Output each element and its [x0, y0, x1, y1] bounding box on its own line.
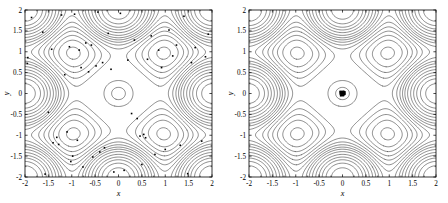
svg-text:-1.5: -1.5 — [43, 180, 55, 188]
svg-text:-1.5: -1.5 — [235, 153, 247, 161]
svg-text:0.5: 0.5 — [237, 69, 246, 77]
svg-text:-0.5: -0.5 — [313, 180, 325, 188]
svg-text:-1: -1 — [69, 180, 75, 188]
svg-text:-0.5: -0.5 — [11, 111, 23, 119]
svg-text:x: x — [116, 189, 121, 198]
contour-plot-right: -2-1.5-1-0.500.511.52-2-1.5-1-0.500.511.… — [224, 0, 448, 203]
svg-text:0.5: 0.5 — [137, 180, 146, 188]
svg-text:2: 2 — [242, 7, 246, 15]
svg-text:1: 1 — [18, 48, 22, 56]
svg-text:0.5: 0.5 — [361, 180, 370, 188]
svg-text:2: 2 — [434, 180, 438, 188]
svg-text:y: y — [226, 91, 235, 96]
svg-text:2: 2 — [18, 7, 22, 15]
panel-left: -2-1.5-1-0.500.511.52-2-1.5-1-0.500.511.… — [0, 0, 224, 203]
svg-text:-2: -2 — [22, 180, 28, 188]
svg-text:1.5: 1.5 — [408, 180, 417, 188]
svg-text:-2: -2 — [246, 180, 252, 188]
svg-text:-1: -1 — [16, 132, 22, 140]
svg-text:1.5: 1.5 — [184, 180, 193, 188]
svg-text:-1: -1 — [293, 180, 299, 188]
panel-right: -2-1.5-1-0.500.511.52-2-1.5-1-0.500.511.… — [224, 0, 448, 203]
svg-text:0: 0 — [18, 90, 22, 98]
svg-text:1: 1 — [242, 48, 246, 56]
svg-text:-0.5: -0.5 — [89, 180, 101, 188]
svg-text:-2: -2 — [240, 174, 246, 182]
svg-text:0: 0 — [117, 180, 121, 188]
svg-text:0.5: 0.5 — [13, 69, 22, 77]
svg-text:x: x — [340, 189, 345, 198]
contour-plot-left: -2-1.5-1-0.500.511.52-2-1.5-1-0.500.511.… — [0, 0, 224, 203]
svg-text:1.5: 1.5 — [237, 27, 246, 35]
svg-text:1.5: 1.5 — [13, 27, 22, 35]
svg-text:1: 1 — [163, 180, 167, 188]
svg-text:y: y — [2, 91, 11, 96]
svg-text:-2: -2 — [16, 174, 22, 182]
two-panel-contour-figure: -2-1.5-1-0.500.511.52-2-1.5-1-0.500.511.… — [0, 0, 448, 203]
svg-text:-0.5: -0.5 — [235, 111, 247, 119]
svg-text:2: 2 — [210, 180, 214, 188]
svg-text:0: 0 — [242, 90, 246, 98]
svg-text:-1.5: -1.5 — [11, 153, 23, 161]
svg-text:-1.5: -1.5 — [267, 180, 279, 188]
svg-text:-1: -1 — [240, 132, 246, 140]
svg-text:0: 0 — [341, 180, 345, 188]
svg-text:1: 1 — [387, 180, 391, 188]
